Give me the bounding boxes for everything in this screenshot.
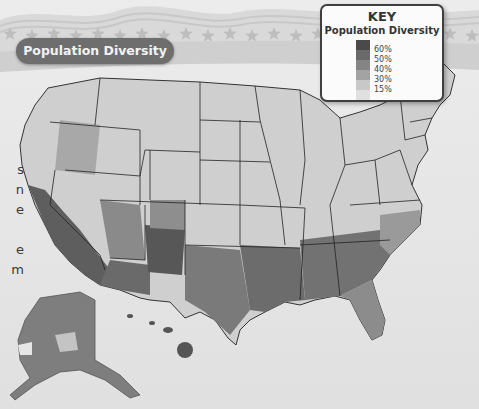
text-fragment: m: [0, 260, 24, 280]
text-fragment: s: [0, 160, 24, 180]
map-page: Population Diversity s n e e m KEY Popul…: [0, 0, 479, 409]
key-swatches: [356, 40, 370, 100]
key-swatch: [356, 70, 370, 80]
key-label-30: 30%: [374, 75, 392, 84]
key-swatch: [356, 60, 370, 70]
map-key: KEY Population Diversity 60% 50% 40% 30%…: [320, 4, 444, 102]
text-fragment: n: [0, 180, 24, 200]
key-label-60: 60%: [374, 45, 392, 54]
hawaii-islands: [127, 314, 193, 358]
key-swatch: [356, 80, 370, 90]
text-fragment: e: [0, 240, 24, 260]
key-swatch: [356, 50, 370, 60]
key-swatch: [356, 40, 370, 50]
text-fragment: e: [0, 200, 24, 220]
key-title: KEY: [322, 9, 442, 24]
key-label-15: 15%: [374, 85, 392, 94]
key-subtitle: Population Diversity: [322, 25, 442, 36]
text-fragment: [0, 220, 24, 240]
map-title: Population Diversity: [16, 38, 174, 64]
key-swatch: [356, 90, 370, 100]
key-label-50: 50%: [374, 55, 392, 64]
key-label-40: 40%: [374, 65, 392, 74]
cropped-text-fragments: s n e e m: [0, 160, 24, 280]
